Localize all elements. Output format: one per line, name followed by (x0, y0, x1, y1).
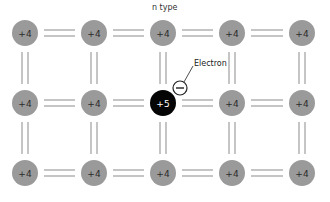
atom-charge-label: +4 (18, 99, 32, 109)
atom-charge-label: +4 (295, 169, 309, 179)
n-type-lattice-diagram: +4+4+4+4+4+4+4+5+4+4+4+4+4+4+4 (0, 0, 330, 202)
atom-charge-label: +4 (18, 29, 32, 39)
atom-charge-label: +5 (156, 99, 169, 109)
atom-charge-label: +4 (156, 29, 170, 39)
atom-charge-label: +4 (295, 99, 309, 109)
electron-label: Electron (194, 59, 227, 68)
atom-charge-label: +4 (156, 169, 170, 179)
atom-charge-label: +4 (18, 169, 32, 179)
atom-charge-label: +4 (87, 169, 101, 179)
atom-charge-label: +4 (87, 29, 101, 39)
atom-charge-label: +4 (295, 29, 309, 39)
atom-charge-label: +4 (225, 169, 239, 179)
atom-charge-label: +4 (225, 29, 239, 39)
diagram-title: n type (152, 3, 177, 12)
atom-charge-label: +4 (87, 99, 101, 109)
electron-leader-line (184, 66, 193, 82)
atom-charge-label: +4 (225, 99, 239, 109)
